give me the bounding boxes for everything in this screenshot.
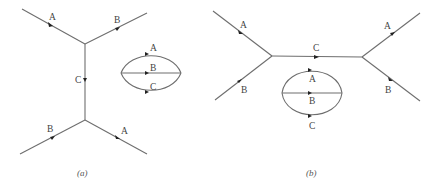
panel-b-loop-label-b: B <box>309 96 315 106</box>
panel-b-line-top-right <box>362 13 420 57</box>
panel-a-label-bottom-right: A <box>121 126 128 136</box>
feynman-diagram-figure: A B C B A A B C (a) A <box>0 0 436 188</box>
panel-a-loop-label-c: C <box>150 82 156 92</box>
panel-a: A B C B A A B C (a) <box>20 9 181 178</box>
panel-a-loop-label-b: B <box>150 63 156 73</box>
arrow-icon <box>145 71 149 75</box>
panel-b-label-top-left: A <box>240 20 247 30</box>
panel-b-label-top-right: A <box>384 21 391 31</box>
panel-a-loop-label-a: A <box>150 43 157 53</box>
arrow-icon <box>50 136 55 140</box>
panel-b-loop-label-a: A <box>309 74 316 84</box>
panel-b-label-bottom-left: B <box>241 85 247 95</box>
panel-a-label-top-left: A <box>49 12 56 22</box>
panel-b: A B C A B A B C (b) <box>213 11 420 178</box>
panel-a-label-top-right: B <box>114 15 120 25</box>
panel-a-caption: (a) <box>77 168 88 178</box>
arrow-icon <box>308 91 312 95</box>
arrow-icon <box>83 78 87 82</box>
panel-b-loop-label-c: C <box>309 121 315 131</box>
panel-b-label-propagator: C <box>313 43 319 53</box>
panel-b-line-top-left <box>213 11 272 56</box>
arrow-icon <box>238 30 243 34</box>
panel-a-label-propagator: C <box>75 75 81 85</box>
panel-b-label-bottom-right: B <box>385 85 391 95</box>
arrow-icon <box>115 27 120 31</box>
panel-a-label-bottom-left: B <box>47 124 53 134</box>
panel-b-caption: (b) <box>306 168 317 178</box>
arrow-icon <box>314 55 319 59</box>
